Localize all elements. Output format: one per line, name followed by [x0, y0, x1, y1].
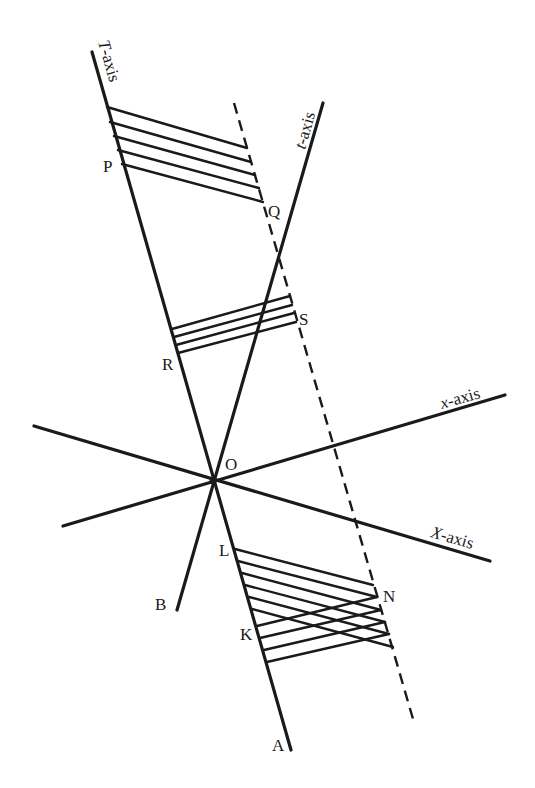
- diagram-svg: T-axis t-axis x-axis X-axis P Q R S O L …: [0, 0, 535, 788]
- hatch-line: [267, 634, 389, 662]
- spacetime-diagram: T-axis t-axis x-axis X-axis P Q R S O L …: [0, 0, 535, 788]
- hatch-line: [260, 610, 381, 638]
- hatch-line: [178, 322, 296, 353]
- X-axis-line: [34, 426, 490, 561]
- hatch-line: [264, 622, 385, 650]
- point-label-R: R: [162, 355, 174, 374]
- hatch-line: [249, 597, 389, 634]
- hatch-line: [172, 296, 290, 329]
- hatch-line: [245, 585, 385, 622]
- point-label-N: N: [383, 587, 395, 606]
- point-label-S: S: [299, 310, 308, 329]
- hatch-group-middle: [172, 296, 296, 353]
- t-axis-line: [177, 103, 323, 610]
- dashed-worldline: [234, 103, 413, 719]
- hatch-line: [252, 609, 393, 647]
- point-label-K: K: [240, 625, 253, 644]
- point-label-O: O: [225, 455, 237, 474]
- hatch-line: [235, 549, 373, 585]
- hatch-line: [176, 313, 294, 345]
- point-label-P: P: [103, 157, 112, 176]
- hatch-line: [174, 305, 292, 337]
- point-label-Q: Q: [268, 202, 280, 221]
- point-label-B: B: [155, 595, 166, 614]
- origin-dot: [210, 478, 217, 485]
- hatch-line: [257, 597, 377, 626]
- x-axis-line: [63, 395, 505, 526]
- point-label-A: A: [272, 736, 285, 755]
- point-label-L: L: [219, 541, 229, 560]
